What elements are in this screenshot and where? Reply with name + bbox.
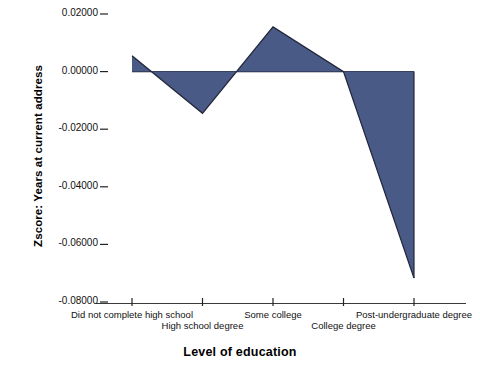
y-axis-tick-label: -0.02000 (12, 122, 98, 133)
y-axis-tick-label: 0.02000 (12, 7, 98, 18)
y-axis-ticks (100, 14, 108, 302)
x-axis-ticks (132, 298, 414, 306)
y-axis-tick-label: 0.00000 (12, 65, 98, 76)
y-axis-tick-label: -0.06000 (12, 237, 98, 248)
x-axis-tick-label: Post-undergraduate degree (174, 309, 480, 320)
y-axis-tick-label: -0.04000 (12, 180, 98, 191)
y-axis-tick-label: -0.08000 (12, 295, 98, 306)
chart-container: Zscore: Years at current address 0.02000… (0, 0, 480, 372)
x-axis-tick-label: College degree (104, 320, 480, 331)
x-axis-title: Level of education (0, 345, 480, 359)
